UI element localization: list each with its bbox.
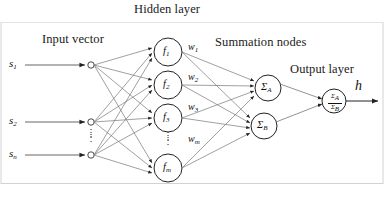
summation-to-output-edges xyxy=(276,84,322,122)
output-layer-title: Output layer xyxy=(290,62,354,77)
weight-label-w3: w3 xyxy=(188,101,198,114)
hidden-label-f2: f2 xyxy=(163,78,169,91)
input-node-circles xyxy=(88,62,94,158)
hidden-label-f3: f3 xyxy=(163,111,169,124)
weight-label-w1: w1 xyxy=(188,41,198,54)
summation-label-b: ΣB xyxy=(257,119,268,132)
hidden-label-fm: fm xyxy=(163,161,171,174)
hidden-label-f1: f1 xyxy=(163,45,169,58)
hidden-layer-title: Hidden layer xyxy=(134,2,200,17)
weight-label-wm: wm xyxy=(188,133,200,146)
summation-label-a: ΣA xyxy=(261,81,272,94)
hidden-ellipsis: ⋮ ⋮ xyxy=(161,134,175,143)
weight-label-w2: w2 xyxy=(188,71,198,84)
input-vector-title: Input vector xyxy=(42,32,104,47)
input-label-sn: sn xyxy=(9,147,17,161)
output-denominator: ΣB xyxy=(331,103,339,110)
input-to-hidden-edges xyxy=(94,48,152,173)
figure-canvas: Hidden layer Input vector Summation node… xyxy=(0,0,384,197)
output-numerator: ΣA xyxy=(331,92,339,99)
output-label-h: h xyxy=(355,78,362,94)
input-label-s2: s2 xyxy=(9,114,17,128)
input-feed-arrows xyxy=(25,65,85,155)
input-label-s1: s1 xyxy=(9,57,17,71)
summation-nodes-title: Summation nodes xyxy=(215,35,306,50)
output-node-fraction: ΣA ΣB xyxy=(327,93,343,114)
input-ellipsis: ⋮ ⋮ xyxy=(84,131,98,140)
